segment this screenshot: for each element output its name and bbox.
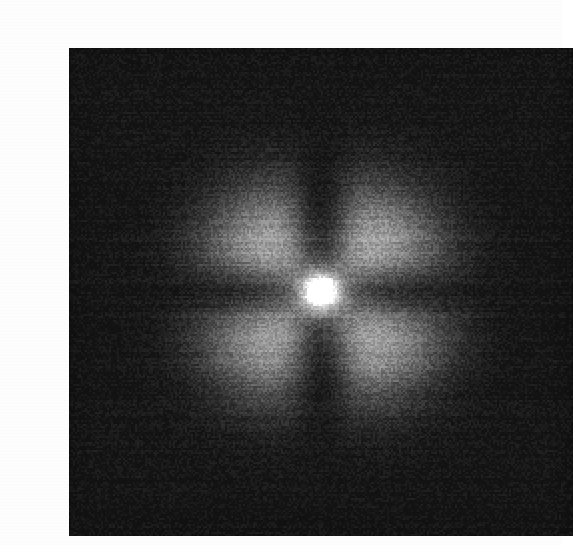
intensity-heatmap-canvas [69, 48, 573, 536]
intensity-map-figure [69, 48, 573, 536]
figure-alt-text: Grayscale two-dimensional intensity map:… [0, 0, 1, 1]
